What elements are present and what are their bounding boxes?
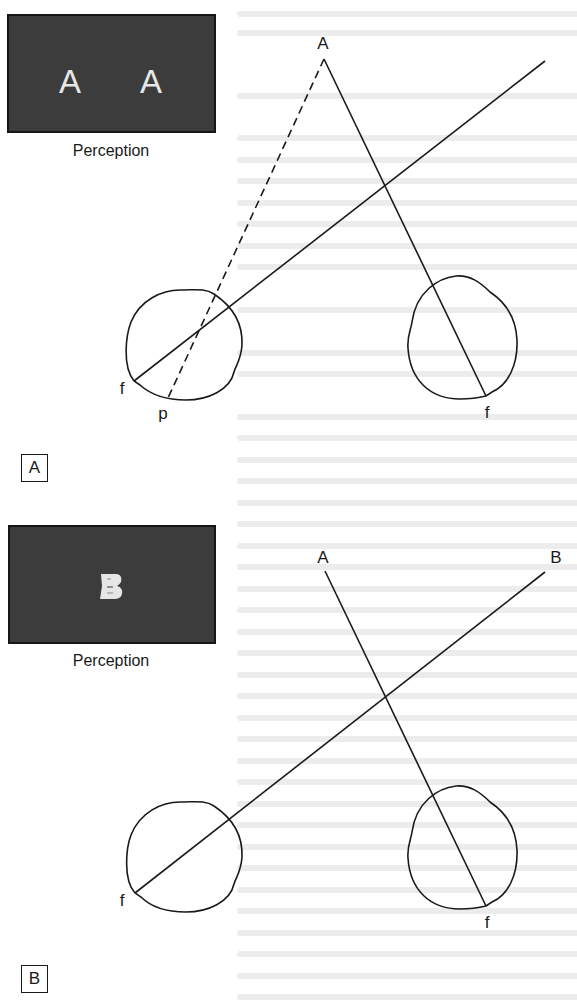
left-eye-outline-b [127, 802, 242, 912]
line-b-to-left-fovea [135, 572, 545, 893]
right-fovea-label-b: f [485, 914, 490, 931]
line-a-to-right-fovea-b [325, 571, 486, 906]
binocular-geometry-b [0, 0, 577, 1001]
left-fovea-label-b: f [120, 892, 125, 909]
object-label-a-b: A [317, 549, 328, 566]
right-eye-outline-b [408, 786, 517, 909]
object-label-b: B [550, 549, 561, 566]
panel-b: Perception A B f f B [0, 0, 577, 1001]
panel-tag-b: B [21, 965, 48, 993]
